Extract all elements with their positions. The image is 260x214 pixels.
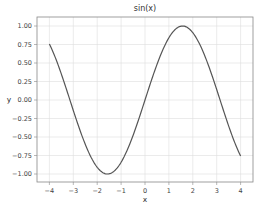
- x-tick-label: 3: [215, 187, 219, 195]
- y-tick-label: 0.25: [18, 78, 32, 86]
- y-tick-label: 0.75: [18, 41, 32, 49]
- x-tick-label: −2: [92, 187, 102, 195]
- y-tick-label: 0.50: [18, 59, 32, 67]
- x-tick-label: −3: [69, 187, 79, 195]
- y-tick-label: −1.00: [12, 170, 32, 178]
- y-axis-label: y: [7, 95, 12, 104]
- x-axis-ticks: −4−3−2−101234: [45, 182, 243, 195]
- y-tick-label: −0.50: [12, 133, 32, 141]
- chart: sin(x) −4−3−2−101234 1.000.750.500.250.0…: [0, 0, 260, 214]
- x-axis-label: x: [143, 195, 148, 204]
- x-tick-label: 0: [143, 187, 147, 195]
- chart-title: sin(x): [134, 4, 156, 13]
- x-tick-label: 4: [239, 187, 243, 195]
- y-tick-label: −0.25: [12, 115, 32, 123]
- x-tick-label: −4: [45, 187, 55, 195]
- y-tick-label: 1.00: [18, 22, 32, 30]
- y-tick-label: −0.75: [12, 152, 32, 160]
- x-tick-label: 1: [167, 187, 171, 195]
- y-tick-label: 0.00: [18, 96, 32, 104]
- x-tick-label: 2: [191, 187, 195, 195]
- y-axis-ticks: 1.000.750.500.250.00−0.25−0.50−0.75−1.00: [12, 22, 37, 178]
- x-tick-label: −1: [116, 187, 126, 195]
